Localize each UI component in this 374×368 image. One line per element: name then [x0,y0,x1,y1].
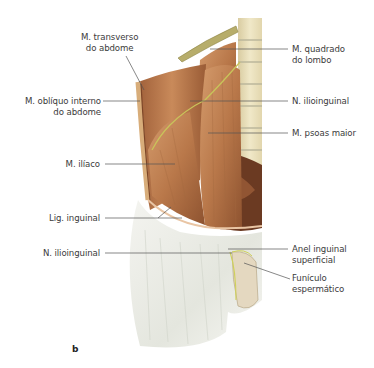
panel-letter: b [72,344,78,354]
label-inguinal-ligament: Lig. inguinal [49,213,100,224]
label-psoas-major: M. psoas maior [292,128,356,139]
label-spermatic-cord: Funículo espermático [292,273,344,294]
label-superficial-inguinal-ring: Anel inguinal superficial [292,244,347,265]
anatomy-figure: M. transverso do abdome M. oblíquo inter… [0,0,374,368]
label-iliacus: M. ilíaco [66,159,100,170]
label-transverse-abdominis: M. transverso do abdome [81,32,138,53]
label-ilioinguinal-nerve-right: N. ilioinguinal [292,96,349,107]
label-quadratus-lumborum: M. quadrado do lombo [292,44,345,65]
label-ilioinguinal-nerve-left: N. ilioinguinal [43,248,100,259]
label-internal-oblique: M. oblíquo interno do abdome [25,96,101,117]
